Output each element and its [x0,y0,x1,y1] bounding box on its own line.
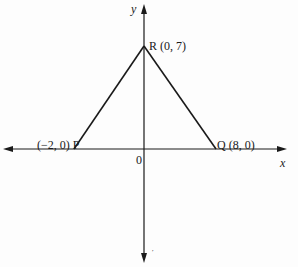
triangle-sides [74,46,216,149]
y-axis-up-arrow-icon [141,4,147,14]
segment-rq [144,46,216,149]
y-axis-down-arrow-icon [141,253,147,263]
y-axis [141,4,147,263]
x-axis-right-arrow-icon [277,146,287,152]
point-q-label: Q (8, 0) [217,139,255,151]
point-r-label: R (0, 7) [149,40,186,52]
origin-label: 0 [136,154,142,166]
diagram-canvas: y x 0 R (0, 7) (−2, 0) P Q (8, 0) ′ [0,0,298,267]
x-axis-label: x [280,157,285,169]
x-axis-left-arrow-icon [3,146,13,152]
point-p-label: (−2, 0) P [37,139,79,151]
stray-mark: ′ [152,246,154,258]
segment-pr [74,46,144,149]
y-axis-label: y [131,3,136,15]
